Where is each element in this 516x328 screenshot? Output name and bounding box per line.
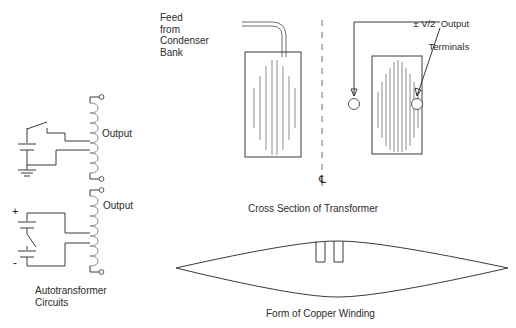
capacitor-symbol-lower-lower [18, 251, 36, 257]
feed-from-condenser-bank-label: Feed from Condenser Bank [160, 12, 209, 58]
lead-upper-top [90, 97, 99, 103]
output-terminal-upper-top[interactable] [99, 95, 104, 100]
centerline-symbol: ℄ [319, 174, 326, 186]
lead-lower-bottom [90, 266, 99, 272]
autotransformer-circuits-caption: Autotransformer Circuits [35, 285, 107, 308]
wire-ground-to-coil-tap [27, 150, 90, 165]
wire-lower-bottom-branch [27, 243, 90, 266]
lead-upper-bottom [90, 173, 99, 179]
output-terminals-label: ± V/2 Output Terminals [408, 6, 469, 64]
winding-tab-left [316, 241, 325, 262]
left-core-box [245, 52, 301, 157]
lower-autotransformer-circuit [18, 188, 104, 275]
copper-winding-caption: Form of Copper Winding [266, 308, 375, 320]
output-terminals-line2: Terminals [408, 41, 469, 53]
wire-switch-to-coil-tap [47, 133, 90, 141]
output-terminal-right-circle[interactable] [412, 99, 423, 110]
polarity-plus-label: + [12, 206, 18, 218]
wire-lower-top-branch [27, 213, 90, 233]
cross-section-caption: Cross Section of Transformer [248, 203, 378, 215]
output-terminal-lower-bottom[interactable] [99, 270, 104, 275]
output-label-upper: Output [102, 128, 132, 140]
coil-symbol-lower [90, 196, 98, 266]
output-terminals-line1: ± V/2 Output [413, 18, 469, 29]
output-terminal-upper-bottom[interactable] [99, 177, 104, 182]
left-winding-lines [254, 60, 295, 155]
copper-winding-shape [176, 241, 508, 297]
polarity-minus-label: - [13, 258, 17, 270]
switch-symbol-upper [27, 122, 47, 133]
switch-symbol-lower [27, 228, 36, 250]
output-terminal-lower-top[interactable] [99, 188, 104, 193]
winding-tab-right [334, 241, 343, 262]
capacitor-symbol-lower-upper [18, 222, 36, 228]
output-terminal-left-circle[interactable] [349, 99, 360, 110]
lead-lower-top [90, 190, 99, 196]
left-transformer-half [242, 22, 301, 157]
capacitor-symbol-upper [18, 144, 36, 150]
coil-symbol-upper [90, 103, 98, 173]
ground-symbol-upper [18, 170, 36, 176]
upper-autotransformer-circuit [18, 95, 104, 182]
output-label-lower: Output [103, 200, 133, 212]
